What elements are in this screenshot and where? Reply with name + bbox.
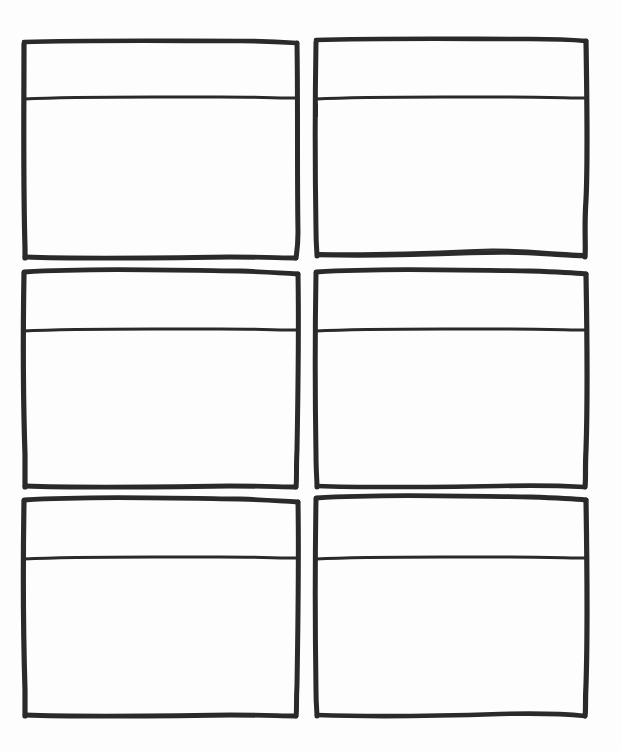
panel-2-caption-area[interactable] (315, 39, 587, 98)
storyboard-panel-6[interactable] (315, 496, 587, 717)
storyboard-panel-1[interactable] (23, 41, 298, 259)
panel-2-body-text (315, 98, 316, 99)
panel-1-caption-area[interactable] (23, 41, 298, 98)
panel-6-body-text (315, 558, 316, 559)
panel-1-image-area[interactable] (23, 98, 298, 259)
panel-6-caption-text (315, 496, 316, 497)
storyboard-panel-3[interactable] (23, 270, 298, 487)
panel-5-image-area[interactable] (23, 558, 298, 717)
panel-6-image-area[interactable] (315, 558, 587, 717)
storyboard-panel-4[interactable] (315, 270, 587, 487)
panel-2-caption-text (315, 39, 316, 40)
panel-4-caption-text (315, 270, 316, 271)
panel-1-body-text (23, 98, 24, 99)
storyboard-panel-2[interactable] (315, 39, 587, 257)
panel-5-body-text (23, 558, 24, 559)
panel-4-body-text (315, 330, 316, 331)
panel-5-caption-text (23, 498, 24, 499)
panel-3-image-area[interactable] (23, 330, 298, 487)
panel-3-body-text (23, 330, 24, 331)
panel-6-caption-area[interactable] (315, 496, 587, 558)
panel-1-caption-text (23, 41, 24, 42)
storyboard-page: Blank Storyboard Template (0, 0, 621, 751)
panel-3-caption-text (23, 270, 24, 271)
panel-4-image-area[interactable] (315, 330, 587, 487)
panel-4-caption-area[interactable] (315, 270, 587, 330)
panel-3-caption-area[interactable] (23, 270, 298, 330)
panel-2-image-area[interactable] (315, 98, 587, 257)
panel-5-caption-area[interactable] (23, 498, 298, 558)
storyboard-panel-5[interactable] (23, 498, 298, 717)
